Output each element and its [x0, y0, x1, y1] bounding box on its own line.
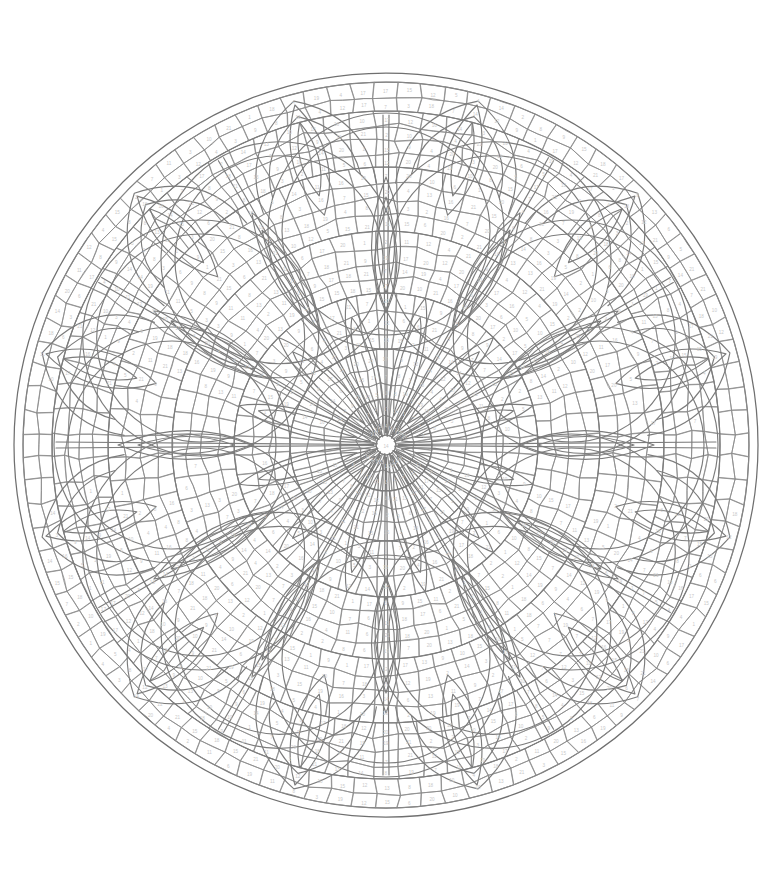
svg-text:3: 3	[572, 678, 575, 683]
svg-text:8: 8	[99, 255, 102, 260]
svg-text:19: 19	[258, 225, 264, 230]
svg-text:18: 18	[468, 554, 474, 559]
svg-text:8: 8	[429, 519, 432, 524]
svg-text:8: 8	[203, 291, 206, 296]
svg-text:20: 20	[368, 359, 374, 364]
svg-text:11: 11	[270, 779, 275, 784]
svg-text:20: 20	[619, 283, 625, 288]
svg-text:15: 15	[359, 378, 365, 383]
svg-text:9: 9	[269, 154, 272, 159]
svg-text:4: 4	[459, 400, 462, 405]
svg-text:21: 21	[337, 331, 343, 336]
svg-text:5: 5	[271, 200, 274, 205]
svg-text:19: 19	[425, 677, 431, 682]
svg-text:3: 3	[345, 346, 348, 351]
svg-text:12: 12	[157, 702, 163, 707]
svg-text:8: 8	[394, 392, 397, 397]
svg-text:5: 5	[522, 407, 525, 412]
svg-text:2: 2	[139, 511, 142, 516]
svg-text:18: 18	[603, 242, 609, 247]
svg-text:21: 21	[361, 132, 367, 137]
svg-text:21: 21	[339, 739, 345, 744]
svg-text:2: 2	[614, 504, 617, 509]
svg-text:21: 21	[640, 649, 646, 654]
svg-text:9: 9	[115, 260, 118, 265]
svg-text:12: 12	[643, 620, 649, 625]
svg-text:8: 8	[472, 332, 475, 337]
svg-text:11: 11	[340, 368, 345, 373]
svg-text:2: 2	[473, 531, 476, 536]
svg-text:4: 4	[448, 248, 451, 253]
svg-text:1: 1	[554, 613, 557, 618]
svg-text:17: 17	[367, 602, 373, 607]
svg-text:16: 16	[384, 530, 390, 535]
svg-text:5: 5	[380, 424, 383, 429]
svg-text:5: 5	[524, 344, 527, 349]
svg-text:10: 10	[383, 711, 389, 716]
svg-text:13: 13	[393, 409, 399, 414]
svg-text:15: 15	[612, 658, 618, 663]
svg-text:9: 9	[620, 713, 623, 718]
svg-text:10: 10	[512, 536, 518, 541]
svg-text:21: 21	[466, 254, 472, 259]
svg-text:9: 9	[297, 730, 300, 735]
svg-text:3: 3	[320, 530, 323, 535]
svg-text:3: 3	[190, 508, 193, 513]
svg-text:8: 8	[129, 668, 132, 673]
svg-text:11: 11	[176, 299, 181, 304]
svg-text:10: 10	[229, 627, 235, 632]
svg-text:9: 9	[486, 343, 489, 348]
svg-text:21: 21	[344, 261, 350, 266]
svg-text:15: 15	[290, 646, 296, 651]
svg-text:13: 13	[312, 568, 318, 573]
svg-text:14: 14	[473, 112, 479, 117]
svg-text:1: 1	[89, 586, 92, 591]
svg-text:9: 9	[177, 618, 180, 623]
svg-text:8: 8	[433, 426, 436, 431]
svg-text:17: 17	[111, 601, 117, 606]
svg-text:19: 19	[318, 689, 324, 694]
svg-text:4: 4	[703, 371, 706, 376]
svg-text:1: 1	[104, 335, 107, 340]
svg-text:13: 13	[384, 338, 390, 343]
svg-text:12: 12	[383, 667, 389, 672]
svg-text:5: 5	[190, 309, 193, 314]
svg-text:6: 6	[407, 698, 410, 703]
svg-text:18: 18	[587, 701, 593, 706]
svg-text:18: 18	[624, 204, 630, 209]
svg-text:8: 8	[570, 716, 573, 721]
svg-text:6: 6	[62, 335, 65, 340]
svg-text:20: 20	[590, 369, 596, 374]
svg-text:15: 15	[436, 488, 442, 493]
svg-text:2: 2	[386, 513, 389, 518]
svg-text:2: 2	[226, 210, 229, 215]
svg-text:2: 2	[503, 337, 506, 342]
svg-text:13: 13	[511, 261, 517, 266]
svg-text:15: 15	[312, 604, 318, 609]
svg-text:5: 5	[327, 229, 330, 234]
svg-text:13: 13	[422, 660, 428, 665]
svg-text:3: 3	[343, 409, 346, 414]
svg-text:2: 2	[385, 133, 388, 138]
svg-text:10: 10	[198, 676, 204, 681]
svg-text:8: 8	[280, 215, 283, 220]
svg-text:7: 7	[684, 536, 687, 541]
svg-text:17: 17	[65, 371, 71, 376]
svg-text:17: 17	[364, 664, 370, 669]
svg-text:11: 11	[205, 548, 210, 553]
svg-text:1: 1	[385, 549, 388, 554]
svg-text:16: 16	[338, 181, 344, 186]
svg-text:5: 5	[358, 544, 361, 549]
svg-text:7: 7	[690, 293, 693, 298]
svg-text:14: 14	[456, 371, 462, 376]
svg-text:18: 18	[270, 687, 276, 692]
svg-text:15: 15	[536, 556, 542, 561]
svg-text:20: 20	[476, 316, 482, 321]
svg-text:7: 7	[319, 499, 322, 504]
svg-text:16: 16	[169, 501, 175, 506]
svg-text:5: 5	[343, 163, 346, 168]
svg-text:8: 8	[350, 484, 353, 489]
svg-text:3: 3	[485, 659, 488, 664]
svg-text:17: 17	[459, 543, 465, 548]
svg-text:19: 19	[409, 770, 415, 775]
